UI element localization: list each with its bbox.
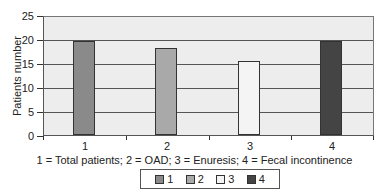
x-tick: [209, 136, 210, 140]
x-tick: [126, 136, 127, 140]
legend-item: 3: [216, 173, 234, 185]
x-axis-caption: 1 = Total patients; 2 = OAD; 3 = Enuresi…: [0, 154, 389, 166]
legend-label: 3: [228, 173, 234, 185]
y-tick-label: 25: [4, 10, 34, 22]
bar-2: [155, 48, 177, 135]
x-tick-label: 1: [75, 140, 95, 152]
x-tick-label: 2: [157, 140, 177, 152]
x-tick: [43, 136, 44, 140]
bar-3: [238, 61, 260, 135]
legend-item: 2: [186, 173, 204, 185]
y-tick-label: 0: [4, 130, 34, 142]
plot-area: [43, 16, 374, 136]
legend-label: 2: [198, 173, 204, 185]
legend-label: 1: [167, 173, 173, 185]
legend-swatch: [216, 175, 225, 184]
y-tick-label: 15: [4, 58, 34, 70]
legend-swatch: [247, 175, 256, 184]
x-tick: [373, 136, 374, 140]
legend-label: 4: [259, 173, 265, 185]
x-tick: [291, 136, 292, 140]
y-tick-label: 5: [4, 106, 34, 118]
y-tick-label: 10: [4, 82, 34, 94]
legend-item: 1: [155, 173, 173, 185]
y-tick-label: 20: [4, 34, 34, 46]
legend-swatch: [186, 175, 195, 184]
legend-swatch: [155, 175, 164, 184]
bar-4: [320, 41, 342, 135]
legend-item: 4: [247, 173, 265, 185]
x-tick-label: 4: [322, 140, 342, 152]
x-tick-label: 3: [240, 140, 260, 152]
legend: 1 2 3 4: [140, 169, 280, 189]
bar-1: [73, 41, 95, 135]
